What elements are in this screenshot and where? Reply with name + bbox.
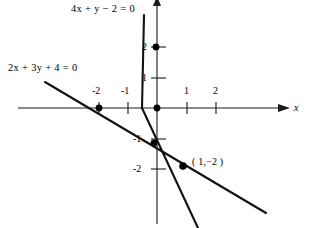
point-0-2 (153, 44, 160, 51)
x-tick-label-plus2: 2 (213, 86, 218, 96)
equation-label-shallow: 2x + 3y + 4 = 0 (8, 63, 78, 74)
intersection-point-label: ( 1,−2 ) (192, 157, 223, 167)
y-tick-label-minus2: -2 (133, 164, 141, 174)
point-0-minus1 (151, 140, 158, 147)
y-axis-arrowhead (153, 0, 161, 6)
graph-figure: 4x + y − 2 = 0 2x + 3y + 4 = 0 -2 -1 1 2… (0, 0, 310, 228)
line-4x-y-2-upper (142, 15, 144, 108)
point-1-minus2 (179, 162, 187, 170)
line-2x-3y-4 (45, 82, 266, 213)
coordinate-plot (0, 0, 310, 228)
point-minus2-0 (96, 105, 103, 112)
y-tick-label-minus1: -1 (133, 134, 141, 144)
x-axis-arrowhead (278, 104, 290, 112)
y-tick-label-plus1: 1 (142, 73, 147, 83)
point-origin-cross (154, 105, 161, 112)
y-tick-label-plus2: 2 (142, 42, 147, 52)
x-tick-label-minus1: -1 (121, 86, 129, 96)
x-tick-label-plus1: 1 (184, 86, 189, 96)
equation-label-steep: 4x + y − 2 = 0 (71, 4, 135, 15)
x-axis-label: x (294, 103, 298, 113)
x-tick-label-minus2: -2 (92, 86, 100, 96)
